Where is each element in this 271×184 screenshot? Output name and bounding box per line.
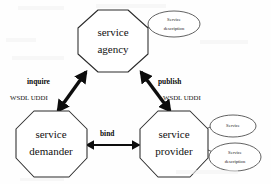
service-demander-label-line1: service <box>35 128 66 140</box>
service-provider-label-line1: service <box>158 128 189 140</box>
artifact-provider-description[interactable]: Service description <box>209 143 261 171</box>
service-agency-label-line2: agency <box>97 43 129 55</box>
inquire-arrow <box>58 72 86 111</box>
publish-label: publish <box>158 77 181 86</box>
provider-service-line1: Service <box>226 123 240 128</box>
service-agency-label-line1: service <box>97 26 128 38</box>
scan-artifact <box>18 6 64 10</box>
scan-artifact <box>96 4 166 8</box>
node-service-agency[interactable]: service agency <box>78 10 148 72</box>
agency-description-line2: description <box>164 26 185 31</box>
edge-inquire: inquire WSDL UDDI <box>10 72 86 111</box>
artifact-agency-description[interactable]: Service description <box>148 11 200 37</box>
artifact-provider-service[interactable]: Service <box>210 115 256 137</box>
provider-description-line1: Service <box>228 150 242 155</box>
publish-sublabel: WSDL UDDI <box>163 94 201 101</box>
scan-artifact <box>176 170 238 174</box>
bind-label: bind <box>100 129 115 138</box>
inquire-label: inquire <box>27 77 51 86</box>
service-demander-label-line2: demander <box>29 145 73 157</box>
provider-description-ellipse[interactable] <box>209 143 261 171</box>
scan-artifact <box>6 38 36 42</box>
service-provider-label-line2: provider <box>155 145 193 157</box>
service-agency-octagon[interactable] <box>78 10 148 72</box>
scan-artifact <box>20 178 64 181</box>
scan-artifact <box>12 56 64 60</box>
scan-artifact <box>200 40 248 44</box>
node-service-demander[interactable]: service demander <box>16 111 87 177</box>
agency-description-line1: Service <box>167 17 181 22</box>
inquire-sublabel: WSDL UDDI <box>10 94 48 101</box>
edge-publish: publish WSDL UDDI <box>141 72 201 111</box>
agency-description-ellipse[interactable] <box>148 11 200 37</box>
node-service-provider[interactable]: service provider <box>140 111 208 177</box>
edge-bind: bind <box>87 129 139 145</box>
provider-description-line2: description <box>225 159 246 164</box>
soa-triangle-diagram: inquire WSDL UDDI publish WSDL UDDI bind… <box>0 0 271 184</box>
diagram-canvas: inquire WSDL UDDI publish WSDL UDDI bind… <box>0 0 271 184</box>
